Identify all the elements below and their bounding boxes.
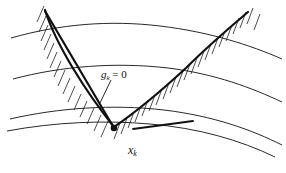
constraint-label: gk = 0: [101, 68, 127, 82]
constraint-relation: = 0: [112, 68, 126, 80]
point-subscript: k: [133, 149, 137, 158]
constraint-diagram: [0, 0, 286, 173]
constraint-subscript: k: [107, 74, 110, 82]
point-marker: [111, 125, 118, 132]
point-label: xk: [128, 143, 137, 158]
